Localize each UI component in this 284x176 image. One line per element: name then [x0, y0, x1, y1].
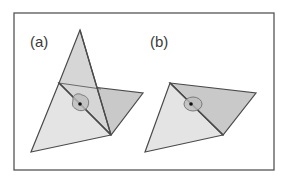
panel-b-vertex-ring — [184, 97, 202, 111]
panel-b-label: (b) — [150, 33, 168, 50]
panel-b-vertex-dot — [189, 102, 193, 106]
panel-b — [145, 83, 256, 152]
diagram-svg — [0, 0, 284, 176]
panel-a-vertex-dot — [78, 102, 82, 106]
panel-a-vertex-ring — [72, 94, 88, 111]
panel-a-label: (a) — [30, 33, 48, 50]
